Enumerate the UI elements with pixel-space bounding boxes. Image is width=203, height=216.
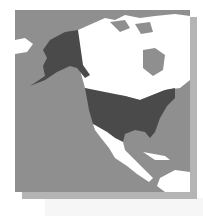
land-cuba [143, 152, 170, 160]
map-graphic [15, 10, 190, 192]
land-south-america [157, 170, 190, 192]
locator-map [15, 10, 190, 192]
land-canada [75, 14, 190, 100]
land-siberia [15, 38, 33, 54]
background-panel [45, 198, 203, 216]
